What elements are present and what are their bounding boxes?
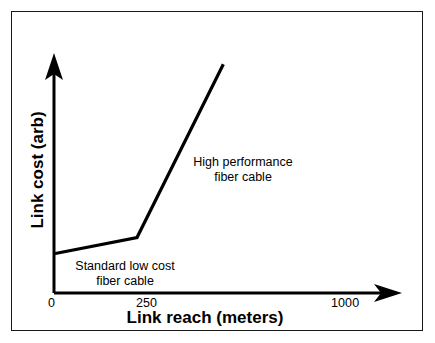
annotation-high-performance-line1: High performance — [183, 155, 303, 170]
annotation-standard-low-cost-fiber-cable: Standard low cost fiber cable — [64, 259, 186, 290]
annotation-high-performance-line2: fiber cable — [183, 170, 303, 185]
annotation-high-performance-fiber-cable: High performance fiber cable — [183, 155, 303, 186]
annotation-standard-low-cost-line1: Standard low cost — [64, 259, 186, 274]
x-axis-title: Link reach (meters) — [60, 308, 350, 328]
annotation-standard-low-cost-line2: fiber cable — [64, 274, 186, 289]
y-axis-title: Link cost (arb) — [28, 90, 48, 250]
x-tick-label-0: 0 — [48, 296, 55, 310]
figure-root: 0 250 1000 Link cost (arb) Link reach (m… — [0, 0, 435, 343]
